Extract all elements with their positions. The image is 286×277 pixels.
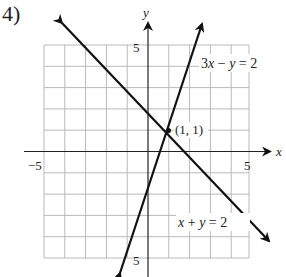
y-tick-neg5: 5: [133, 253, 140, 268]
intersection-point: [166, 128, 171, 133]
x-tick-neg5: −5: [28, 158, 42, 173]
y-tick-5: 5: [133, 40, 140, 55]
x-axis-label: x: [275, 144, 282, 159]
line2-label: x + y = 2: [177, 215, 227, 230]
x-tick-5: 5: [244, 158, 251, 173]
coordinate-plane: y x −5 5 5 5 (1, 1) 3x − y = 2 x + y = 2: [0, 0, 286, 277]
y-axis-label: y: [141, 5, 149, 20]
intersection-label: (1, 1): [175, 122, 203, 137]
line1-label: 3x − y = 2: [201, 56, 257, 71]
